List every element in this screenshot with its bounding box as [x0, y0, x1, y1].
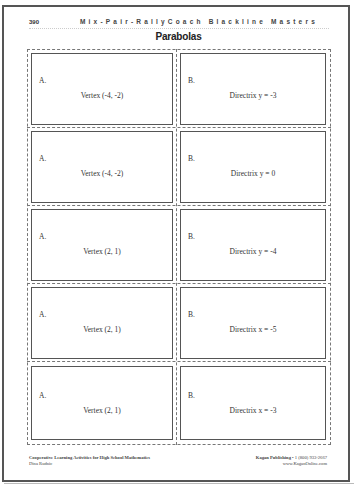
author: Dina Rudnic — [29, 461, 150, 467]
page-shadow — [4, 483, 354, 484]
card-a-5: A. Vertex (2, 1) — [31, 366, 173, 440]
card-b-4: B. Directrix x = -5 — [180, 287, 326, 359]
page-title: Parabolas — [0, 31, 357, 42]
card-text: Directrix x = -3 — [181, 406, 325, 415]
cut-line-horizontal — [27, 205, 331, 206]
card-text: Directrix y = 0 — [181, 169, 325, 178]
card-a-2: A. Vertex (-4, -2) — [31, 131, 173, 203]
series-title: Mix-Pair-RallyCoach Blackline Masters — [80, 18, 328, 25]
card-text: Directrix y = -4 — [181, 247, 325, 256]
card-b-1: B. Directrix y = -3 — [180, 53, 326, 125]
card-text: Directrix x = -5 — [181, 325, 325, 334]
card-b-5: B. Directrix x = -3 — [180, 366, 326, 440]
cut-line-horizontal — [27, 361, 331, 362]
card-letter: A. — [39, 391, 46, 400]
card-letter: B. — [188, 232, 195, 241]
book-title: Cooperative Learning Activities for High… — [29, 455, 150, 461]
card-letter: A. — [39, 76, 46, 85]
page-number: 390 — [29, 19, 39, 25]
header-rule — [29, 28, 329, 29]
card-letter: A. — [39, 154, 46, 163]
cut-line-horizontal — [27, 283, 331, 284]
card-text: Vertex (2, 1) — [32, 247, 172, 256]
card-b-2: B. Directrix y = 0 — [180, 131, 326, 203]
cut-line-horizontal — [27, 127, 331, 128]
card-text: Vertex (2, 1) — [32, 406, 172, 415]
card-a-1: A. Vertex (-4, -2) — [31, 53, 173, 125]
website: www.KaganOnline.com — [256, 461, 327, 467]
card-text: Vertex (-4, -2) — [32, 91, 172, 100]
card-text: Vertex (2, 1) — [32, 325, 172, 334]
publisher: Kagan Publishing — [256, 455, 291, 460]
footer-left: Cooperative Learning Activities for High… — [29, 455, 150, 466]
card-a-4: A. Vertex (2, 1) — [31, 287, 173, 359]
card-letter: A. — [39, 310, 46, 319]
card-letter: B. — [188, 310, 195, 319]
card-letter: B. — [188, 76, 195, 85]
card-text: Directrix y = -3 — [181, 91, 325, 100]
card-b-3: B. Directrix y = -4 — [180, 209, 326, 281]
card-letter: B. — [188, 391, 195, 400]
footer-right: Kagan Publishing • 1 (800) 933-2667 www.… — [256, 455, 327, 466]
card-letter: A. — [39, 232, 46, 241]
card-letter: B. — [188, 154, 195, 163]
card-text: Vertex (-4, -2) — [32, 169, 172, 178]
phone: • 1 (800) 933-2667 — [291, 455, 327, 460]
card-a-3: A. Vertex (2, 1) — [31, 209, 173, 281]
cut-line-vertical — [176, 49, 177, 445]
